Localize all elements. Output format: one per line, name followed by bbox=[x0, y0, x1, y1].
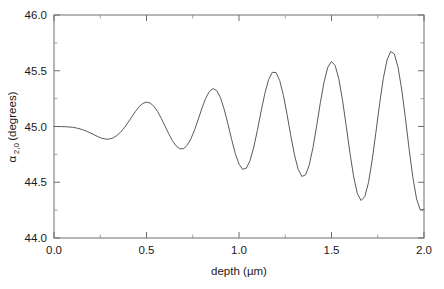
y-tick-label: 45.5 bbox=[25, 65, 47, 77]
x-axis-title: depth (µm) bbox=[211, 265, 267, 277]
y-axis-title-subscript: 2,0 bbox=[12, 143, 21, 156]
x-tick-label: 0.0 bbox=[46, 244, 62, 256]
y-tick-label: 45.0 bbox=[25, 121, 47, 133]
y-tick-label: 44.5 bbox=[25, 176, 47, 188]
y-tick-label: 46.0 bbox=[25, 9, 47, 21]
chart-figure: 0.00.51.01.52.0 44.044.545.045.546.0 dep… bbox=[0, 0, 444, 289]
y-axis-title-rest: (degrees) bbox=[6, 91, 18, 143]
x-tick-label: 1.5 bbox=[324, 244, 340, 256]
x-tick-label: 2.0 bbox=[416, 244, 432, 256]
x-tick-label: 1.0 bbox=[231, 244, 247, 256]
x-tick-label: 0.5 bbox=[139, 244, 155, 256]
figure-background bbox=[0, 0, 444, 289]
y-tick-label: 44.0 bbox=[25, 232, 47, 244]
